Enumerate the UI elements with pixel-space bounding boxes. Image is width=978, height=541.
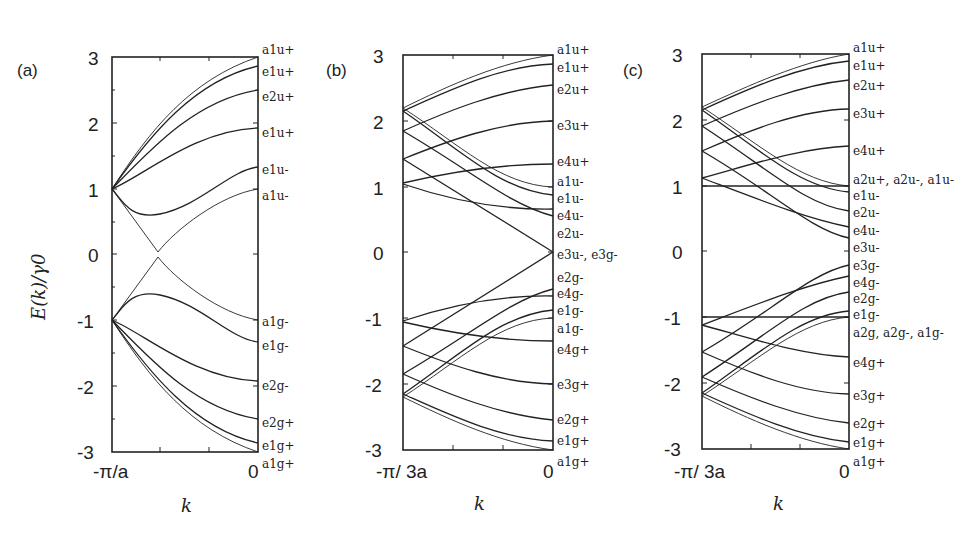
panel-label-a: (a) bbox=[17, 61, 38, 80]
band-label: e1g+ bbox=[853, 436, 885, 450]
ytick-3: 3 bbox=[88, 48, 99, 69]
band-label: e2g- bbox=[262, 379, 288, 393]
band-label: e4g- bbox=[557, 287, 583, 301]
band-label: a1g- bbox=[557, 322, 584, 336]
band-label: e4g- bbox=[853, 276, 879, 290]
band-label: e1g- bbox=[262, 339, 288, 353]
band-label: e4u+ bbox=[853, 144, 886, 158]
band-label: e4u+ bbox=[557, 155, 590, 169]
band-label: e2g+ bbox=[557, 413, 589, 427]
ytick-neg2: -2 bbox=[77, 377, 94, 398]
ytick-0: 0 bbox=[88, 245, 99, 266]
band-label: e3g- bbox=[853, 259, 879, 273]
ytick-neg1: -1 bbox=[664, 308, 681, 329]
bands-b bbox=[403, 55, 553, 450]
band-label: e4g+ bbox=[853, 356, 885, 370]
xtick-left-b: -π/ 3a bbox=[376, 461, 428, 482]
band-label: e1u+ bbox=[262, 126, 295, 140]
xtick-right-c: 0 bbox=[839, 461, 850, 482]
band-label: e4u- bbox=[853, 224, 880, 238]
ytick-neg3: -3 bbox=[365, 440, 382, 461]
band-label: a1g+ bbox=[262, 457, 295, 471]
band-label: e2u+ bbox=[262, 90, 295, 104]
y-ticks-b: 3 2 1 0 -1 -2 -3 bbox=[365, 46, 384, 461]
ytick-1: 1 bbox=[672, 177, 683, 198]
y-axis-title: E(k)/γ0 bbox=[28, 254, 49, 321]
panel-b: 3 2 1 0 -1 -2 -3 bbox=[365, 43, 618, 514]
ytick-3: 3 bbox=[373, 46, 384, 67]
band-labels-a: a1u+ e1u+ e2u+ e1u+ e1u- a1u- a1g- e1g- … bbox=[262, 43, 295, 471]
x-axis-title-a: k bbox=[181, 495, 192, 516]
x-axis-title-c: k bbox=[773, 493, 784, 514]
band-label: e4g+ bbox=[557, 343, 589, 357]
tick-marks-a bbox=[112, 57, 258, 452]
band-label: a1u+ bbox=[557, 43, 590, 57]
ytick-0: 0 bbox=[373, 243, 384, 264]
band-label: e2g- bbox=[853, 292, 879, 306]
band-label: e1g+ bbox=[557, 434, 589, 448]
band-label: e2g+ bbox=[853, 417, 885, 431]
band-structure-figure: (a) (b) (c) E(k)/γ0 3 2 1 0 -1 -2 -3 bbox=[0, 0, 978, 541]
band-label: e1u- bbox=[853, 189, 880, 203]
band-label: e3g+ bbox=[853, 389, 885, 403]
band-label: e2u- bbox=[853, 206, 880, 220]
ytick-neg2: -2 bbox=[664, 374, 681, 395]
band-label: e3u- bbox=[853, 241, 880, 255]
panel-c: 3 2 1 0 -1 -2 -3 bbox=[664, 41, 954, 514]
bands-a bbox=[112, 57, 258, 452]
band-labels-b: a1u+ e1u+ e2u+ e3u+ e4u+ a1u- e1u- e4u- … bbox=[557, 43, 618, 469]
ytick-1: 1 bbox=[88, 180, 99, 201]
y-ticks-c: 3 2 1 0 -1 -2 -3 bbox=[664, 45, 683, 460]
xtick-right-a: 0 bbox=[248, 461, 259, 482]
y-ticks-a: 3 2 1 0 -1 -2 -3 bbox=[77, 48, 99, 463]
band-label: e2u+ bbox=[853, 79, 886, 93]
band-label: e2u- bbox=[557, 227, 584, 241]
band-label: a1u- bbox=[262, 189, 289, 203]
band-label: a1g- bbox=[262, 315, 289, 329]
bands-c bbox=[702, 54, 849, 449]
band-label: e2u+ bbox=[557, 83, 590, 97]
ytick-2: 2 bbox=[672, 111, 683, 132]
band-label: e1u- bbox=[262, 163, 289, 177]
band-label: e1g- bbox=[557, 304, 583, 318]
band-label: e1u- bbox=[557, 192, 584, 206]
band-label: a1u- bbox=[557, 175, 584, 189]
panel-label-b: (b) bbox=[326, 61, 347, 80]
band-label: a1g+ bbox=[557, 455, 590, 469]
ytick-2: 2 bbox=[373, 112, 384, 133]
panel-label-c: (c) bbox=[623, 61, 643, 80]
band-label: e3u-, e3g- bbox=[557, 248, 618, 262]
band-label: a1u+ bbox=[853, 41, 886, 55]
plot-frame-b bbox=[403, 55, 553, 450]
band-label: a2u+, a2u-, a1u- bbox=[853, 173, 954, 187]
band-labels-c: a1u+ e1u+ e2u+ e3u+ e4u+ a2u+, a2u-, a1u… bbox=[853, 41, 954, 469]
ytick-0: 0 bbox=[672, 242, 683, 263]
tick-marks-c bbox=[702, 54, 849, 449]
band-label: a2g, a2g-, a1g- bbox=[853, 326, 944, 340]
xtick-left-c: -π/ 3a bbox=[674, 461, 726, 482]
ytick-neg1: -1 bbox=[365, 309, 382, 330]
ytick-neg3: -3 bbox=[664, 439, 681, 460]
band-label: a1u+ bbox=[262, 43, 295, 57]
band-label: e2g+ bbox=[262, 416, 294, 430]
band-label: e3u+ bbox=[853, 107, 886, 121]
band-label: e3u+ bbox=[557, 119, 590, 133]
tick-marks-b bbox=[403, 55, 553, 450]
ytick-3: 3 bbox=[672, 45, 683, 66]
band-label: e1u+ bbox=[557, 61, 590, 75]
plot-frame-c bbox=[702, 54, 849, 449]
band-label: e1u+ bbox=[853, 59, 886, 73]
band-label: e1g- bbox=[853, 308, 879, 322]
band-label: e4u- bbox=[557, 209, 584, 223]
plot-frame-a bbox=[112, 57, 258, 452]
ytick-neg3: -3 bbox=[77, 442, 94, 463]
xtick-left-a: -π/a bbox=[93, 461, 129, 482]
x-axis-title-b: k bbox=[474, 493, 485, 514]
band-label: a1g+ bbox=[853, 455, 886, 469]
ytick-neg2: -2 bbox=[365, 375, 382, 396]
band-label: e1u+ bbox=[262, 65, 295, 79]
ytick-2: 2 bbox=[88, 114, 99, 135]
band-label: e3g+ bbox=[557, 378, 589, 392]
band-label: e2g- bbox=[557, 271, 583, 285]
band-label: e1g+ bbox=[262, 439, 294, 453]
